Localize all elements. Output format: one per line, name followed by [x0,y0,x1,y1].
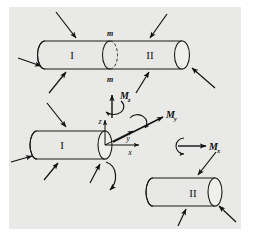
moment-z-subscript: z [127,96,131,103]
part-II-surface [146,178,215,206]
top-cylinder-body [38,41,190,69]
axis-label-x: x [127,148,132,157]
part-II-label: II [189,187,197,199]
section-label-bottom: m [107,75,113,84]
moment-y-subscript: y [173,115,177,122]
top-cylinder-surface [38,41,183,69]
part-II-right-end-cap [208,178,222,206]
figure-container: m m I II I [0,0,258,241]
fbd-cylinder-surface [30,131,105,159]
separated-cylinder-part-II [146,178,222,206]
section-label-top: m [107,29,113,38]
top-part-label-II: II [146,49,154,61]
mechanics-section-figure: m m I II I [0,0,258,241]
fbd-cylinder-part-I [30,131,112,159]
top-part-label-I: I [70,49,74,61]
fbd-part-label-I: I [60,139,64,151]
top-cylinder-right-end-cap [175,41,190,69]
